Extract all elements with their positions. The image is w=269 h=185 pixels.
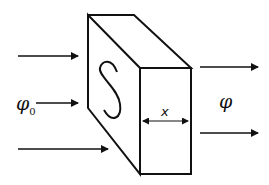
transmitted-flux-label: φ (219, 90, 232, 112)
slab-left-face (88, 15, 140, 174)
phi-symbol: φ (16, 92, 29, 114)
phi-subscript: 0 (29, 106, 35, 117)
face-s-glyph (100, 62, 120, 118)
thickness-label: x (161, 104, 169, 119)
slab (88, 15, 191, 174)
slab-top-face (88, 15, 191, 68)
incident-flux-label: φ0 (16, 92, 36, 114)
